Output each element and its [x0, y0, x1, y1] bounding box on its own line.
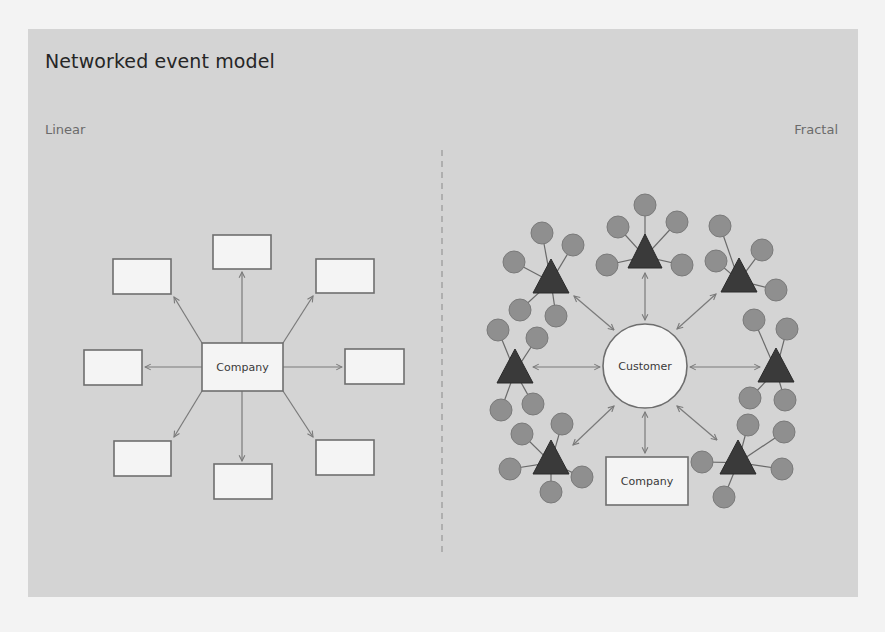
linear-diagram: Company: [84, 235, 404, 499]
satellite-node: [709, 215, 731, 237]
satellite-node: [522, 393, 544, 415]
satellite-node: [739, 387, 761, 409]
satellite-node: [765, 279, 787, 301]
satellite-node: [737, 414, 759, 436]
diagram-canvas: Company CustomerCompany: [0, 0, 885, 632]
hub-triangle: [497, 349, 533, 383]
satellite-node: [540, 481, 562, 503]
satellite-node: [596, 254, 618, 276]
satellite-node: [571, 466, 593, 488]
satellite-node: [526, 327, 548, 349]
fractal-diagram: CustomerCompany: [487, 194, 798, 508]
linear-node-box: [316, 259, 374, 293]
satellite-node: [487, 319, 509, 341]
satellite-node: [743, 309, 765, 331]
linear-node-box: [113, 259, 171, 294]
satellite-node: [545, 305, 567, 327]
linear-node-box: [316, 440, 374, 475]
customer-label: Customer: [618, 360, 672, 373]
section-label-fractal: Fractal: [794, 122, 838, 137]
satellite-node: [551, 413, 573, 435]
hub-triangle: [758, 348, 794, 382]
satellite-node: [511, 423, 533, 445]
satellite-node: [607, 216, 629, 238]
hub-triangle: [720, 440, 756, 474]
satellite-node: [531, 222, 553, 244]
fractal-bidirectional-arrow: [677, 294, 716, 329]
fractal-bidirectional-arrow: [573, 406, 614, 445]
fractal-company-label: Company: [621, 475, 674, 488]
hub-triangle: [533, 440, 569, 474]
satellite-node: [490, 399, 512, 421]
satellite-node: [713, 486, 735, 508]
satellite-node: [634, 194, 656, 216]
page-title: Networked event model: [45, 50, 275, 72]
linear-node-box: [84, 350, 142, 385]
linear-node-box: [213, 235, 271, 269]
fractal-bidirectional-arrow: [574, 296, 614, 330]
linear-node-box: [345, 349, 404, 384]
linear-arrow: [283, 296, 313, 343]
hub-triangle: [533, 259, 569, 293]
linear-node-box: [214, 464, 272, 499]
linear-company-label: Company: [216, 361, 269, 374]
hub-triangle: [628, 234, 662, 268]
satellite-node: [503, 251, 525, 273]
satellite-node: [771, 458, 793, 480]
linear-arrow: [283, 391, 313, 437]
satellite-node: [509, 299, 531, 321]
linear-arrow: [174, 391, 202, 437]
satellite-node: [774, 389, 796, 411]
section-label-linear: Linear: [45, 122, 85, 137]
satellite-node: [773, 421, 795, 443]
satellite-node: [666, 211, 688, 233]
linear-node-box: [114, 441, 171, 476]
linear-arrow: [174, 297, 202, 343]
satellite-node: [691, 451, 713, 473]
satellite-node: [562, 234, 584, 256]
satellite-node: [671, 254, 693, 276]
satellite-node: [776, 318, 798, 340]
satellite-node: [751, 239, 773, 261]
satellite-node: [705, 250, 727, 272]
satellite-node: [499, 458, 521, 480]
fractal-bidirectional-arrow: [677, 406, 717, 440]
